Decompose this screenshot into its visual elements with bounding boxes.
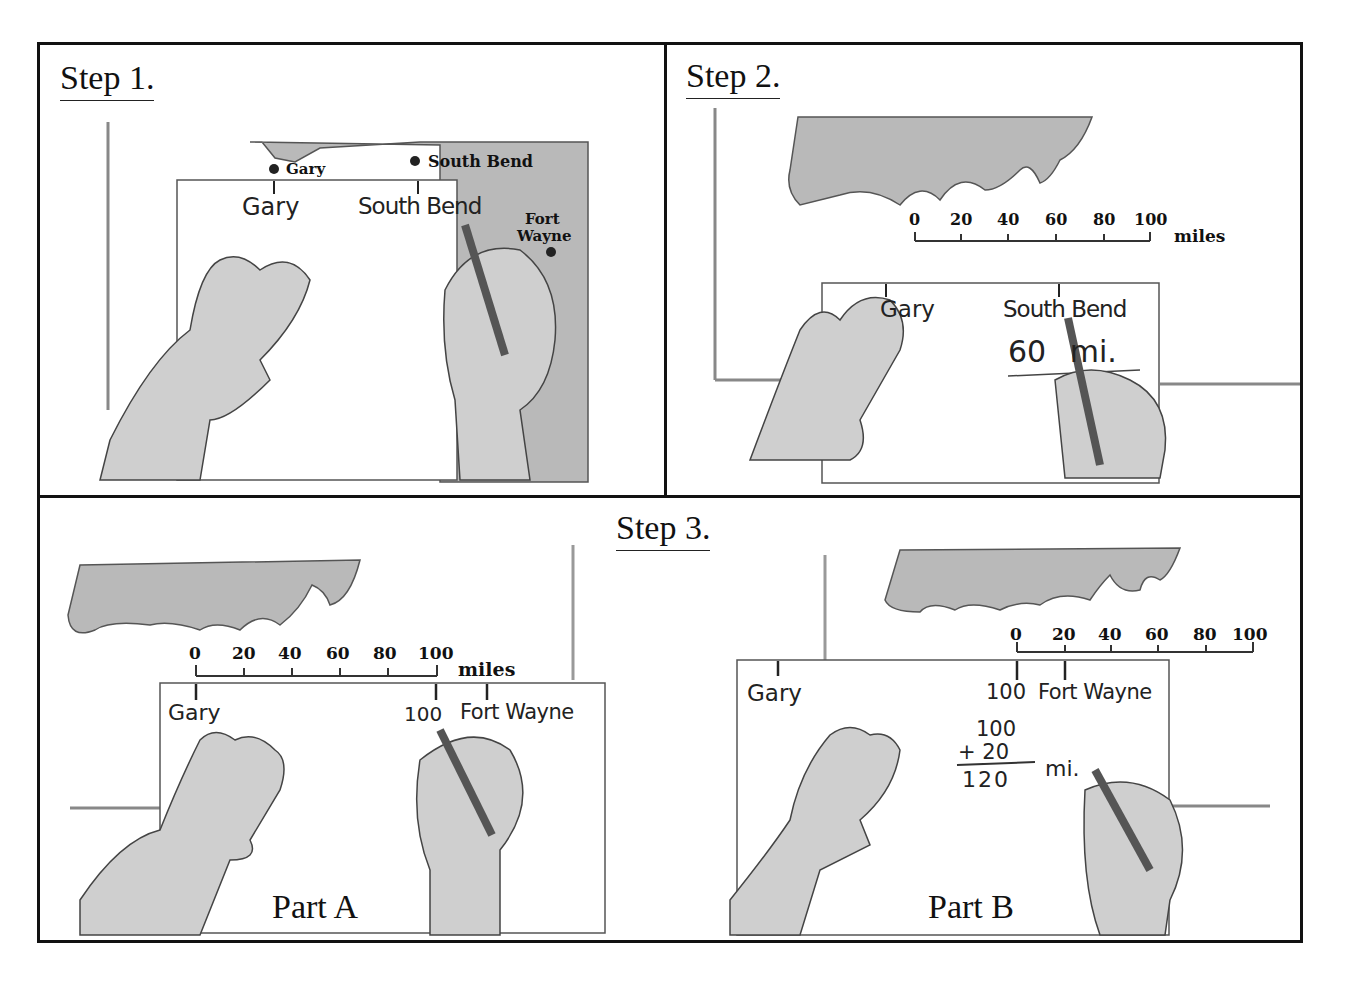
scale-tick-100: 100 [1232,624,1268,644]
paper-label-fort-wayne: Fort Wayne [1038,680,1152,704]
part-b-label: Part B [928,888,1014,926]
paper-mark-100: 100 [986,680,1026,704]
scale-tick-60: 60 [326,643,350,663]
map-label-fort: Fort [525,210,560,228]
scale-tick-20: 20 [950,210,972,229]
step-1-title: Step 1. [60,58,154,101]
right-hand [1084,782,1183,935]
scale-tick-0: 0 [1010,624,1022,644]
indiana-map-shape [68,560,360,633]
scale-tick-100: 100 [1134,210,1167,229]
scale-tick-0: 0 [189,643,201,663]
map-label-gary: Gary [286,160,325,178]
paper-label-gary: Gary [747,680,802,706]
scale-tick-40: 40 [1098,624,1122,644]
scale-tick-40: 40 [278,643,302,663]
distance-label: 60 mi. [1008,334,1117,369]
sum-unit: mi. [1045,756,1080,781]
paper-label-south-bend: South Bend [358,193,481,219]
scale-unit: miles [458,658,515,680]
paper-label-fort-wayne: Fort Wayne [460,700,574,724]
step-2-title: Step 2. [686,56,780,99]
paper-label-gary: Gary [880,296,935,322]
scale-tick-40: 40 [997,210,1019,229]
paper-label-gary: Gary [168,700,221,725]
scale-tick-60: 60 [1145,624,1169,644]
scale-tick-20: 20 [1052,624,1076,644]
sum-addend-2: + 20 [958,740,1009,764]
illustration-graphics [0,0,1352,984]
part-a-label: Part A [272,888,358,926]
step-3-title: Step 3. [616,508,710,551]
scale-bar [196,665,437,676]
scale-tick-100: 100 [418,643,454,663]
scale-tick-80: 80 [373,643,397,663]
map-label-wayne: Wayne [517,227,571,245]
indiana-map-shape [789,117,1092,205]
scale-tick-20: 20 [232,643,256,663]
scale-tick-80: 80 [1193,624,1217,644]
scale-unit: miles [1174,226,1225,246]
paper-mark-100: 100 [404,702,442,726]
indiana-map-shape [885,548,1180,612]
paper-label-gary: Gary [242,193,299,221]
scale-tick-80: 80 [1093,210,1115,229]
scale-tick-60: 60 [1045,210,1067,229]
paper-label-south-bend: South Bend [1003,296,1126,322]
sum-total: 120 [962,767,1010,792]
map-label-south-bend: South Bend [428,152,533,171]
scale-tick-0: 0 [909,210,920,229]
scale-bar [915,232,1150,241]
sum-addend-1: 100 [976,717,1016,741]
